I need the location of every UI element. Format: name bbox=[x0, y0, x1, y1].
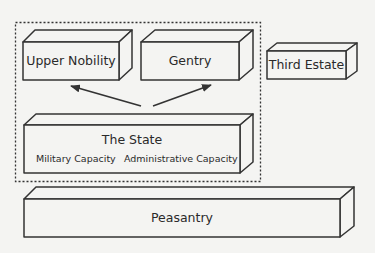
arrow-state-to-upper-nobility bbox=[71, 86, 141, 106]
administrative-capacity-label: Administrative Capacity bbox=[124, 153, 230, 164]
state-label: The State bbox=[24, 132, 240, 147]
upper-nobility-label: Upper Nobility bbox=[23, 53, 119, 68]
gentry-label: Gentry bbox=[141, 53, 239, 68]
arrow-state-to-gentry bbox=[153, 85, 211, 106]
military-capacity-label: Military Capacity bbox=[36, 153, 110, 164]
third-estate-label: Third Estate bbox=[267, 57, 346, 72]
peasantry-label: Peasantry bbox=[24, 210, 340, 225]
